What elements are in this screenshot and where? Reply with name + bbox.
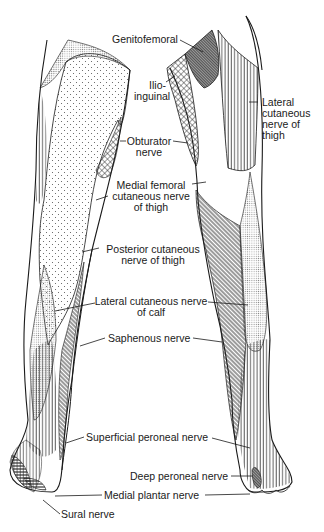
label-superficial-peroneal: Superficial peroneal nerve xyxy=(86,432,208,443)
label-obturator: Obturator nerve xyxy=(124,136,174,158)
label-pct-line2: nerve of thigh xyxy=(100,255,206,266)
label-lcc-line2: of calf xyxy=(92,307,210,318)
label-saphenous: Saphenous nerve xyxy=(108,333,190,344)
label-genitofemoral: Genitofemoral xyxy=(112,34,178,45)
label-ilioinguinal: Ilio- inguinal xyxy=(134,80,166,102)
label-deep-peroneal: Deep peroneal nerve xyxy=(130,471,228,482)
label-lateral-cutaneous-calf: Lateral cutaneous nerve of calf xyxy=(92,296,210,318)
label-obturator-line2: nerve xyxy=(124,147,174,158)
label-mfc-line3: of thigh xyxy=(108,202,194,213)
label-medial-plantar: Medial plantar nerve xyxy=(104,490,199,501)
label-posterior-cutaneous-thigh: Posterior cutaneous nerve of thigh xyxy=(100,244,206,266)
label-ilioinguinal-line2: inguinal xyxy=(134,91,166,102)
label-lateral-cutaneous-thigh: Lateral cutaneous nerve of thigh xyxy=(262,97,310,141)
label-lct-line4: thigh xyxy=(262,130,310,141)
label-sural: Sural nerve xyxy=(61,509,115,520)
label-medial-femoral-cutaneous: Medial femoral cutaneous nerve of thigh xyxy=(108,180,194,213)
left-leg xyxy=(10,40,130,492)
